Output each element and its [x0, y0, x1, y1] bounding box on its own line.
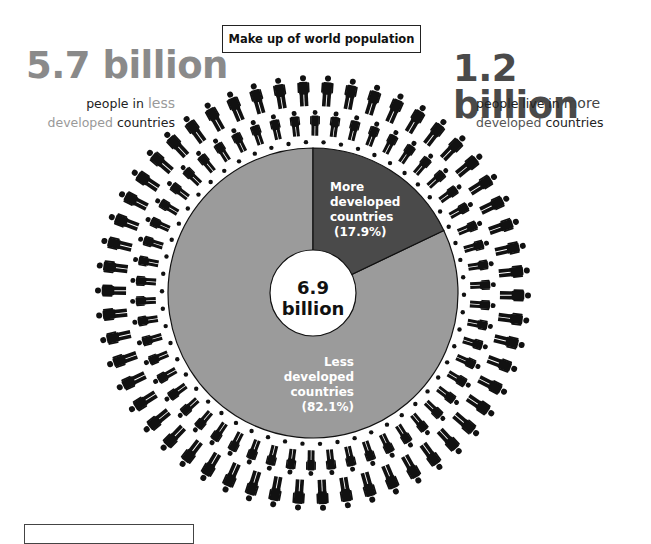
- person-icon-small: [428, 195, 432, 199]
- person-icon-small: [286, 142, 290, 146]
- person-icon: [210, 136, 232, 163]
- person-icon: [129, 166, 161, 193]
- person-icon: [397, 139, 420, 166]
- person-icon-small: [222, 169, 226, 173]
- person-icon-small: [196, 192, 200, 196]
- slice-label-more-developed: More developed countries (17.9%): [330, 180, 400, 240]
- person-icon: [272, 77, 289, 110]
- person-icon-small: [457, 327, 461, 331]
- person-icon: [132, 314, 159, 328]
- person-icon-small: [461, 275, 465, 279]
- person-icon: [137, 234, 164, 251]
- person-icon: [292, 479, 306, 511]
- person-icon: [378, 432, 398, 459]
- person-icon-small: [321, 140, 325, 144]
- person-icon: [470, 299, 496, 311]
- person-icon: [219, 461, 243, 494]
- person-icon-small: [453, 241, 457, 245]
- person-icon: [346, 114, 362, 141]
- person-icon-small: [266, 435, 270, 439]
- person-icon: [435, 426, 465, 457]
- person-icon: [180, 113, 208, 145]
- person-icon: [126, 389, 159, 416]
- person-icon-small: [219, 411, 223, 415]
- total-population-label: 6.9 billion: [270, 255, 356, 341]
- person-icon: [225, 431, 246, 458]
- person-icon: [114, 370, 147, 394]
- person-icon: [141, 407, 173, 436]
- person-icon-small: [170, 238, 174, 242]
- person-icon: [264, 444, 280, 471]
- person-icon: [463, 238, 490, 255]
- person-icon: [228, 126, 248, 153]
- person-icon: [99, 328, 132, 346]
- person-icon: [446, 369, 473, 391]
- person-icon: [394, 423, 416, 450]
- person-icon: [439, 132, 469, 163]
- person-icon-small: [385, 422, 389, 426]
- person-icon: [465, 393, 497, 420]
- person-icon: [247, 82, 267, 115]
- person-icon: [267, 476, 285, 509]
- person-icon: [342, 78, 360, 111]
- person-icon-small: [269, 146, 273, 150]
- person-icon: [455, 352, 482, 371]
- person-icon-small: [177, 221, 181, 225]
- slice-label-less-developed: Less developed countries (82.1%): [254, 355, 354, 415]
- person-icon: [201, 100, 227, 133]
- person-icon: [422, 116, 450, 148]
- person-icon: [207, 421, 230, 448]
- legend-box: [24, 524, 194, 544]
- person-icon: [403, 102, 429, 135]
- person-icon: [306, 450, 316, 476]
- person-icon: [384, 91, 408, 124]
- person-icon: [381, 128, 402, 155]
- person-icon: [359, 471, 379, 504]
- person-icon-small: [194, 387, 198, 391]
- person-icon-small: [452, 344, 456, 348]
- person-icon: [418, 441, 446, 473]
- person-icon: [248, 119, 266, 146]
- person-icon: [363, 83, 384, 116]
- person-icon: [178, 162, 203, 187]
- person-icon: [242, 470, 263, 503]
- person-icon: [244, 438, 262, 465]
- person-icon-small: [416, 182, 420, 186]
- person-icon: [176, 438, 204, 470]
- person-icon: [117, 188, 150, 213]
- person-icon: [337, 477, 354, 510]
- person-icon: [144, 214, 171, 233]
- person-icon-small: [369, 430, 373, 434]
- person-icon: [409, 412, 433, 438]
- person-icon: [157, 423, 187, 454]
- person-icon: [360, 440, 378, 467]
- person-icon: [493, 332, 526, 351]
- person-icon: [454, 150, 486, 179]
- person-icon-small: [163, 324, 167, 328]
- person-icon: [478, 192, 511, 216]
- person-icon: [175, 396, 201, 421]
- person-icon: [151, 366, 178, 387]
- person-icon: [437, 181, 464, 204]
- person-icon-small: [249, 429, 253, 433]
- person-icon: [164, 178, 190, 201]
- person-icon: [399, 453, 425, 486]
- person-icon-small: [184, 372, 188, 376]
- person-icon: [435, 384, 461, 407]
- person-icon: [96, 307, 128, 322]
- person-icon: [285, 448, 298, 475]
- total-value: 6.9: [297, 277, 329, 298]
- person-icon: [476, 374, 509, 399]
- person-icon: [320, 75, 334, 107]
- person-icon-small: [400, 413, 404, 417]
- slice-label-line: developed: [254, 370, 354, 385]
- person-icon: [316, 479, 329, 511]
- person-icon-small: [356, 147, 360, 151]
- person-icon: [498, 264, 530, 279]
- person-icon: [498, 311, 530, 327]
- person-icon: [328, 111, 341, 138]
- person-icon-small: [234, 421, 238, 425]
- slice-label-line: More: [330, 180, 400, 195]
- slice-label-line: developed: [330, 195, 400, 210]
- person-icon: [467, 317, 494, 331]
